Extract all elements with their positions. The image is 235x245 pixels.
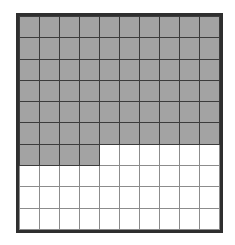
grid-row [20, 59, 220, 80]
grid-cell-shaded [40, 80, 60, 101]
grid-cell-shaded [20, 102, 40, 123]
grid-cell-shaded [200, 80, 220, 101]
grid-cell-unshaded [180, 144, 200, 165]
grid-cell-shaded [160, 17, 180, 38]
grid-cell-unshaded [120, 208, 140, 229]
grid-cell-shaded [40, 59, 60, 80]
grid-cell-unshaded [180, 187, 200, 208]
grid-cell-shaded [60, 144, 80, 165]
grid-cell-shaded [100, 80, 120, 101]
grid-cell-shaded [60, 80, 80, 101]
grid-cell-shaded [160, 123, 180, 144]
grid-cell-shaded [140, 59, 160, 80]
grid-cell-unshaded [120, 144, 140, 165]
grid-cell-shaded [20, 123, 40, 144]
grid-cell-unshaded [140, 144, 160, 165]
grid-cell-unshaded [160, 166, 180, 187]
grid-cell-shaded [80, 17, 100, 38]
grid-cell-shaded [40, 102, 60, 123]
grid-cell-shaded [20, 144, 40, 165]
grid-cell-unshaded [140, 187, 160, 208]
grid-cell-unshaded [140, 166, 160, 187]
grid-cell-shaded [160, 102, 180, 123]
grid-cell-shaded [200, 38, 220, 59]
grid-cell-unshaded [100, 187, 120, 208]
grid-cell-unshaded [60, 187, 80, 208]
grid-cell-shaded [60, 123, 80, 144]
grid-cell-unshaded [100, 144, 120, 165]
grid-cell-shaded [140, 80, 160, 101]
grid-row [20, 123, 220, 144]
grid-cell-unshaded [180, 208, 200, 229]
grid-cell-unshaded [200, 187, 220, 208]
grid-table [19, 16, 220, 230]
grid-cell-shaded [100, 59, 120, 80]
grid-body [20, 17, 220, 230]
grid-cell-shaded [100, 38, 120, 59]
grid-cell-shaded [40, 17, 60, 38]
grid-row [20, 17, 220, 38]
grid-row [20, 144, 220, 165]
grid-cell-shaded [80, 59, 100, 80]
grid-cell-shaded [180, 59, 200, 80]
grid-cell-shaded [160, 80, 180, 101]
grid-cell-shaded [120, 102, 140, 123]
grid-cell-shaded [20, 59, 40, 80]
grid-cell-unshaded [100, 208, 120, 229]
grid-cell-shaded [20, 38, 40, 59]
grid-cell-shaded [180, 80, 200, 101]
grid-cell-shaded [160, 38, 180, 59]
grid-cell-unshaded [40, 187, 60, 208]
grid-cell-shaded [80, 102, 100, 123]
grid-cell-unshaded [80, 166, 100, 187]
hundredths-grid-figure [16, 13, 223, 233]
grid-cell-unshaded [40, 208, 60, 229]
grid-cell-shaded [140, 123, 160, 144]
grid-cell-shaded [100, 123, 120, 144]
grid-cell-unshaded [80, 187, 100, 208]
grid-cell-shaded [60, 17, 80, 38]
grid-cell-shaded [120, 123, 140, 144]
grid-cell-shaded [120, 17, 140, 38]
grid-cell-shaded [80, 38, 100, 59]
grid-cell-shaded [120, 80, 140, 101]
grid-cell-unshaded [160, 208, 180, 229]
grid-cell-shaded [100, 102, 120, 123]
grid-cell-unshaded [200, 166, 220, 187]
grid-cell-unshaded [100, 166, 120, 187]
grid-cell-shaded [100, 17, 120, 38]
grid-cell-shaded [40, 38, 60, 59]
grid-cell-unshaded [200, 144, 220, 165]
grid-cell-unshaded [80, 208, 100, 229]
grid-cell-shaded [40, 144, 60, 165]
grid-cell-shaded [200, 123, 220, 144]
grid-cell-unshaded [180, 166, 200, 187]
grid-cell-shaded [120, 38, 140, 59]
grid-cell-unshaded [60, 166, 80, 187]
grid-cell-unshaded [140, 208, 160, 229]
grid-cell-shaded [60, 102, 80, 123]
grid-cell-unshaded [40, 166, 60, 187]
grid-cell-unshaded [160, 144, 180, 165]
grid-row [20, 80, 220, 101]
grid-cell-shaded [80, 80, 100, 101]
grid-cell-shaded [40, 123, 60, 144]
grid-cell-unshaded [120, 166, 140, 187]
grid-cell-unshaded [60, 208, 80, 229]
grid-cell-shaded [200, 102, 220, 123]
grid-cell-unshaded [20, 208, 40, 229]
grid-cell-shaded [180, 17, 200, 38]
grid-cell-shaded [200, 17, 220, 38]
grid-row [20, 38, 220, 59]
grid-cell-shaded [80, 144, 100, 165]
grid-cell-shaded [140, 102, 160, 123]
grid-cell-shaded [140, 17, 160, 38]
grid-cell-unshaded [20, 166, 40, 187]
grid-cell-shaded [200, 59, 220, 80]
grid-cell-shaded [160, 59, 180, 80]
grid-cell-shaded [120, 59, 140, 80]
grid-cell-unshaded [160, 187, 180, 208]
grid-cell-shaded [180, 102, 200, 123]
grid-cell-shaded [180, 38, 200, 59]
grid-cell-shaded [80, 123, 100, 144]
